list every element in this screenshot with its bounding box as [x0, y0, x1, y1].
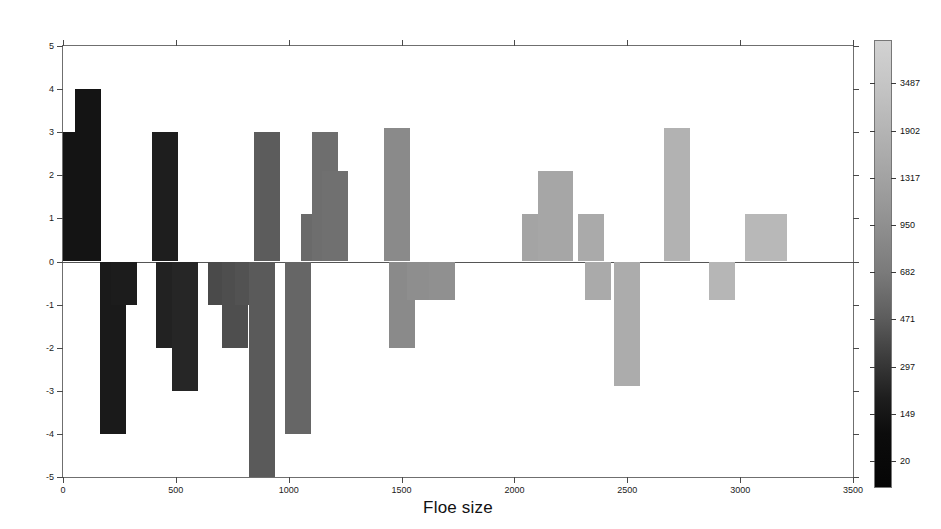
y-axis-tick-right — [853, 348, 859, 349]
bar[interactable] — [614, 262, 640, 387]
colorbar[interactable]: 20149297471682950131719023487 — [874, 40, 892, 488]
y-axis-tick — [57, 218, 63, 219]
bar[interactable] — [254, 132, 280, 261]
colorbar-tick-label: 297 — [900, 362, 915, 372]
x-axis-tick — [289, 477, 290, 483]
y-axis-tick — [57, 305, 63, 306]
y-axis-tick-label: 0 — [49, 257, 54, 267]
bar[interactable] — [111, 262, 137, 305]
x-axis-tick-top — [627, 40, 628, 46]
y-axis-tick — [57, 348, 63, 349]
colorbar-tick — [870, 83, 875, 84]
y-axis-tick-label: -5 — [46, 472, 54, 482]
colorbar-tick-label: 1902 — [900, 126, 920, 136]
bar[interactable] — [578, 214, 604, 261]
x-axis-tick — [402, 477, 403, 483]
x-axis-tick-label: 1500 — [392, 485, 412, 495]
y-axis-tick-label: 4 — [49, 84, 54, 94]
x-axis-tick-top — [289, 40, 290, 46]
x-axis-tick — [63, 477, 64, 483]
colorbar-tick-right — [891, 367, 896, 368]
bar[interactable] — [429, 262, 455, 301]
colorbar-tick-label: 471 — [900, 314, 915, 324]
colorbar-tick-right — [891, 414, 896, 415]
bar[interactable] — [172, 262, 198, 391]
bar[interactable] — [322, 171, 348, 262]
y-axis-tick-label: -4 — [46, 429, 54, 439]
bar[interactable] — [75, 89, 101, 261]
y-axis-tick — [57, 89, 63, 90]
colorbar-tick — [870, 131, 875, 132]
colorbar-tick — [870, 461, 875, 462]
x-axis-tick-label: 2000 — [504, 485, 524, 495]
x-axis-tick-top — [853, 40, 854, 46]
x-axis-tick — [853, 477, 854, 483]
colorbar-tick-right — [891, 319, 896, 320]
colorbar-tick-label: 149 — [900, 409, 915, 419]
y-axis-tick-label: -2 — [46, 343, 54, 353]
colorbar-tick-right — [891, 225, 896, 226]
bar[interactable] — [709, 262, 735, 301]
y-axis-tick-label: -1 — [46, 300, 54, 310]
y-axis-tick-right — [853, 391, 859, 392]
y-axis-tick-right — [853, 175, 859, 176]
colorbar-tick-label: 682 — [900, 267, 915, 277]
figure-canvas: Error differences -5-4-3-2-1012345050010… — [0, 0, 941, 529]
y-axis-tick-right — [853, 218, 859, 219]
x-axis-tick-label: 500 — [168, 485, 183, 495]
colorbar-tick-label: 20 — [900, 456, 910, 466]
y-axis-tick-right — [853, 262, 859, 263]
x-axis-tick-top — [63, 40, 64, 46]
bar[interactable] — [761, 214, 787, 261]
colorbar-tick-label: 1317 — [900, 173, 920, 183]
y-axis-tick-label: 1 — [49, 213, 54, 223]
x-axis-tick-top — [176, 40, 177, 46]
y-axis-tick-label: 2 — [49, 170, 54, 180]
bar[interactable] — [249, 262, 275, 478]
y-axis-tick — [57, 391, 63, 392]
colorbar-tick-label: 950 — [900, 220, 915, 230]
x-axis-tick — [740, 477, 741, 483]
x-axis-tick-label: 0 — [60, 485, 65, 495]
bar[interactable] — [547, 171, 573, 262]
colorbar-tick-right — [891, 178, 896, 179]
x-axis-tick-label: 2500 — [617, 485, 637, 495]
colorbar-tick-label: 3487 — [900, 78, 920, 88]
bar[interactable] — [285, 262, 311, 434]
x-axis-title: Floe size — [62, 498, 854, 518]
y-axis-tick-right — [853, 305, 859, 306]
colorbar-tick — [870, 178, 875, 179]
colorbar-tick-right — [891, 461, 896, 462]
bar[interactable] — [384, 128, 410, 262]
x-axis-tick-label: 3500 — [843, 485, 863, 495]
y-axis-tick — [57, 262, 63, 263]
x-axis-tick-top — [514, 40, 515, 46]
colorbar-tick — [870, 319, 875, 320]
colorbar-tick — [870, 272, 875, 273]
y-axis-tick — [57, 175, 63, 176]
y-axis-tick-label: 5 — [49, 41, 54, 51]
plot-area — [63, 46, 853, 477]
colorbar-tick — [870, 225, 875, 226]
y-axis-tick-label: -3 — [46, 386, 54, 396]
x-axis-tick — [176, 477, 177, 483]
y-axis-tick-label: 3 — [49, 127, 54, 137]
colorbar-tick — [870, 414, 875, 415]
x-axis-tick-top — [402, 40, 403, 46]
colorbar-tick-right — [891, 272, 896, 273]
x-axis-tick-label: 3000 — [730, 485, 750, 495]
colorbar-tick-right — [891, 131, 896, 132]
plot-frame: -5-4-3-2-1012345050010001500200025003000… — [62, 45, 854, 478]
bar[interactable] — [585, 262, 611, 301]
x-axis-tick-label: 1000 — [279, 485, 299, 495]
bar[interactable] — [664, 128, 690, 262]
colorbar-tick — [870, 367, 875, 368]
bar[interactable] — [152, 132, 178, 261]
x-axis-tick — [514, 477, 515, 483]
y-axis-tick — [57, 46, 63, 47]
y-axis-tick — [57, 434, 63, 435]
y-axis-tick-right — [853, 132, 859, 133]
colorbar-tick-right — [891, 83, 896, 84]
x-axis-tick-top — [740, 40, 741, 46]
x-axis-tick — [627, 477, 628, 483]
